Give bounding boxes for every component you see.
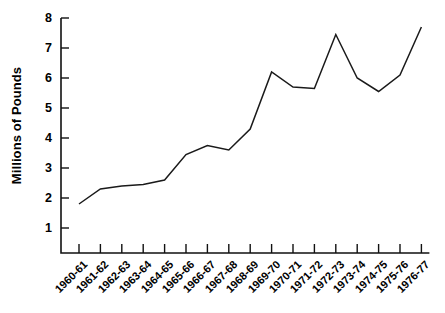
line-chart: Millions of Pounds 87654321 1960-611961-…: [0, 0, 445, 313]
y-axis-ticks: [61, 18, 69, 228]
data-series: [79, 27, 421, 204]
plot-area: [0, 0, 445, 313]
axes: [61, 18, 429, 253]
series-line-path: [79, 27, 421, 204]
x-axis-ticks: [79, 244, 421, 253]
axis-lines: [61, 18, 429, 253]
